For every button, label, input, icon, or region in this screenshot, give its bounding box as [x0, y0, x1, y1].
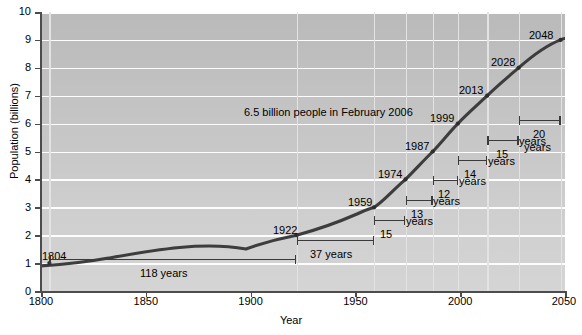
x-tick-label-1900: 1900 [231, 296, 271, 307]
bracket-label-12-years: 12 [438, 189, 450, 200]
annotation-6-5-billion: 6.5 billion people in February 2006 [244, 107, 413, 118]
x-tick-label-2000: 2000 [440, 296, 480, 307]
y-tick-label-9: 9 [1, 34, 31, 44]
bracket-12-years [433, 176, 458, 185]
y-axis-title: Population (billions) [8, 51, 20, 211]
population-growth-chart: 1804 1922 1959 1974 1987 1999 2013 2028 … [0, 0, 582, 335]
y-tick-9 [35, 40, 41, 42]
point-label-1959: 1959 [348, 197, 372, 208]
x-tick-label-1850: 1850 [126, 296, 166, 307]
point-label-1922: 1922 [273, 225, 297, 236]
datapoint-2013 [485, 94, 489, 98]
bracket-label-37-years: 37 years [310, 249, 352, 260]
bracket-label-14-years: 14 [464, 169, 476, 180]
bracket-13-years [406, 196, 433, 205]
x-tick-label-1950: 1950 [335, 296, 375, 307]
datapoint-1999 [456, 122, 460, 126]
bracket-15-years-1959 [374, 216, 405, 225]
population-curve [41, 12, 565, 291]
bracket-14-years [458, 156, 487, 165]
datapoint-1987 [431, 149, 435, 153]
point-label-2013: 2013 [459, 85, 483, 96]
y-tick-5 [35, 152, 41, 154]
datapoint-2048 [559, 38, 563, 42]
datapoint-1974 [403, 177, 407, 181]
y-tick-7 [35, 96, 41, 98]
bracket-label-15-years-2013: 15 [496, 149, 508, 160]
datapoint-1959 [372, 205, 376, 209]
y-tick-1 [35, 263, 41, 265]
bracket-37-years [297, 236, 375, 245]
y-tick-label-1: 1 [1, 258, 31, 268]
point-label-1987: 1987 [405, 141, 429, 152]
bracket-label-20-years: 20 [533, 129, 545, 140]
bracket-unit-20-years: years [524, 142, 551, 153]
y-tick-6 [35, 124, 41, 126]
y-tick-4 [35, 179, 41, 181]
point-label-2028: 2028 [491, 57, 515, 68]
bracket-20-years [519, 116, 561, 125]
y-tick-3 [35, 207, 41, 209]
bracket-label-118-years: 118 years [140, 268, 188, 279]
bracket-label-15-years-1959: 15 [380, 229, 392, 240]
x-tick-label-2050: 2050 [544, 296, 582, 307]
datapoint-2028 [517, 66, 521, 70]
bracket-label-13-years: 13 [411, 209, 423, 220]
x-axis-title: Year [0, 314, 582, 326]
y-tick-label-10: 10 [1, 6, 31, 16]
y-tick-10 [35, 12, 41, 14]
y-tick-8 [35, 68, 41, 70]
point-label-2048: 2048 [529, 30, 553, 41]
point-label-1974: 1974 [378, 169, 402, 180]
bracket-15-years-2013 [487, 136, 519, 145]
bracket-118-years [49, 255, 296, 264]
x-tick-label-1800: 1800 [21, 296, 61, 307]
y-tick-label-0: 0 [1, 286, 31, 296]
y-tick-label-2: 2 [1, 230, 31, 240]
point-label-1999: 1999 [430, 113, 454, 124]
y-tick-2 [35, 235, 41, 237]
x-axis-line [41, 291, 566, 293]
